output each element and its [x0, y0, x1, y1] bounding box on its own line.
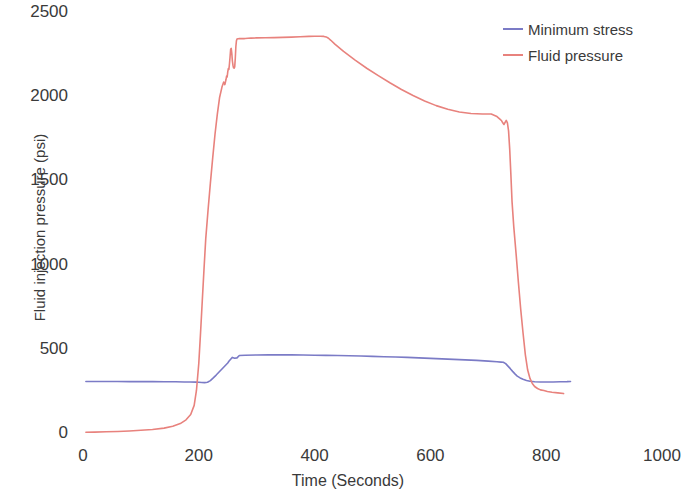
chart-container: 05001000150020002500 02004006008001000 F… [0, 0, 696, 500]
legend-label: Fluid pressure [528, 47, 623, 64]
series-line [86, 355, 571, 383]
legend-color-swatch [503, 28, 523, 30]
legend-item[interactable]: Fluid pressure [503, 42, 633, 68]
legend-color-swatch [503, 54, 523, 56]
chart-legend: Minimum stressFluid pressure [503, 16, 633, 68]
legend-item[interactable]: Minimum stress [503, 16, 633, 42]
legend-label: Minimum stress [528, 21, 633, 38]
series-line [86, 36, 564, 432]
plot-area [0, 0, 696, 500]
